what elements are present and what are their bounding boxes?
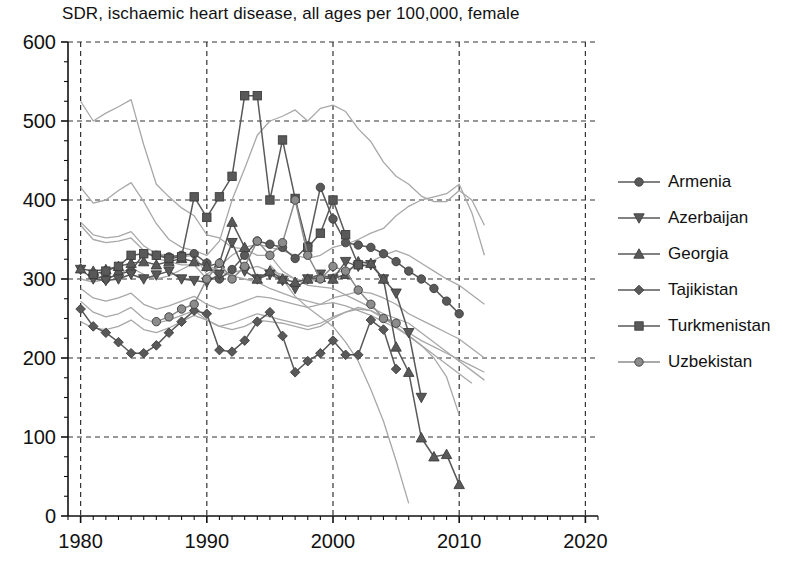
diamond-icon [616, 280, 662, 300]
legend-item-georgia[interactable]: Georgia [616, 242, 770, 266]
data-point-marker [215, 345, 225, 355]
y-axis-tick-labels: 0100200300400500600 [23, 31, 56, 527]
data-point-marker [215, 259, 223, 267]
data-point-marker [165, 313, 173, 321]
data-point-marker [152, 251, 160, 259]
data-point-marker [316, 183, 324, 191]
x-axis-tick-labels: 19801990200020102020 [58, 530, 607, 552]
data-point-marker [291, 196, 299, 204]
y-tick-label: 200 [23, 347, 56, 369]
x-tick-label: 2000 [311, 530, 356, 552]
data-point-marker [391, 364, 401, 374]
legend-item-tajikistan[interactable]: Tajikistan [616, 278, 770, 302]
data-point-marker [634, 285, 644, 295]
data-point-marker [291, 254, 299, 262]
data-point-marker [416, 393, 426, 402]
data-point-marker [379, 314, 387, 322]
legend: ArmeniaAzerbaijanGeorgiaTajikistanTurkme… [616, 170, 770, 374]
data-point-marker [127, 251, 135, 259]
data-point-marker [240, 262, 248, 270]
triangle-down-icon [616, 208, 662, 228]
data-point-marker [354, 261, 362, 269]
legend-label: Uzbekistan [668, 352, 752, 372]
y-tick-label: 0 [45, 505, 56, 527]
data-point-marker [635, 358, 643, 366]
triangle-up-icon [616, 244, 662, 264]
x-tick-label: 2010 [437, 530, 482, 552]
y-tick-label: 100 [23, 426, 56, 448]
data-point-marker [405, 267, 413, 275]
data-point-marker [316, 275, 324, 283]
data-point-marker [353, 350, 363, 360]
data-point-marker [454, 479, 464, 488]
x-tick-label: 2020 [563, 530, 608, 552]
data-point-marker [341, 231, 349, 239]
data-point-marker [240, 92, 248, 100]
data-point-marker [177, 253, 185, 261]
data-point-marker [367, 300, 375, 308]
data-point-marker [215, 193, 223, 201]
data-point-marker [392, 319, 400, 327]
legend-label: Turkmenistan [668, 316, 770, 336]
circle-light-icon [616, 352, 662, 372]
data-point-marker [190, 193, 198, 201]
legend-item-armenia[interactable]: Armenia [616, 170, 770, 194]
data-point-marker [329, 262, 337, 270]
data-point-marker [203, 213, 211, 221]
data-point-marker [316, 229, 324, 237]
legend-label: Tajikistan [668, 280, 738, 300]
y-tick-label: 600 [23, 31, 56, 53]
data-point-marker [367, 243, 375, 251]
legend-label: Georgia [668, 244, 728, 264]
legend-item-uzbekistan[interactable]: Uzbekistan [616, 350, 770, 374]
background-series-line [81, 263, 460, 415]
data-point-marker [165, 254, 173, 262]
data-point-marker [442, 297, 450, 305]
data-point-marker [635, 178, 643, 186]
data-point-marker [278, 238, 286, 246]
highlight-series-layer [75, 92, 464, 489]
data-point-marker [203, 275, 211, 283]
circle-icon [616, 172, 662, 192]
x-tick-label: 1980 [58, 530, 103, 552]
data-point-marker [329, 215, 337, 223]
square-icon [616, 316, 662, 336]
y-tick-label: 500 [23, 110, 56, 132]
data-point-marker [102, 267, 110, 275]
data-point-marker [441, 449, 451, 458]
legend-label: Azerbaijan [668, 208, 748, 228]
legend-item-turkmenistan[interactable]: Turkmenistan [616, 314, 770, 338]
data-point-marker [227, 238, 237, 247]
data-point-marker [329, 196, 337, 204]
data-point-marker [126, 270, 136, 279]
data-point-marker [266, 240, 274, 248]
data-point-marker [304, 251, 312, 259]
data-point-marker [391, 289, 401, 298]
data-point-marker [278, 136, 286, 144]
data-point-marker [227, 217, 237, 226]
data-point-marker [152, 317, 160, 325]
data-point-marker [140, 250, 148, 258]
x-tick-label: 1990 [185, 530, 230, 552]
data-point-marker [392, 257, 400, 265]
data-point-marker [266, 196, 274, 204]
legend-item-azerbaijan[interactable]: Azerbaijan [616, 206, 770, 230]
data-point-marker [278, 331, 288, 341]
data-point-marker [253, 92, 261, 100]
data-point-marker [635, 322, 643, 330]
data-point-marker [89, 270, 97, 278]
data-point-marker [177, 305, 185, 313]
data-point-marker [416, 433, 426, 442]
data-point-marker [139, 348, 149, 358]
data-point-marker [266, 251, 274, 259]
data-point-marker [379, 250, 387, 258]
data-point-marker [417, 275, 425, 283]
data-point-marker [341, 267, 349, 275]
data-point-marker [391, 342, 401, 351]
data-point-marker [228, 265, 236, 273]
y-tick-label: 300 [23, 268, 56, 290]
data-point-marker [190, 300, 198, 308]
legend-label: Armenia [668, 172, 731, 192]
data-point-marker [455, 310, 463, 318]
data-point-marker [228, 172, 236, 180]
